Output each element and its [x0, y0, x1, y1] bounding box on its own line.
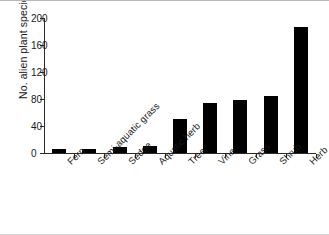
- y-axis-line: [44, 18, 45, 154]
- bar: [52, 149, 66, 153]
- y-tick-label: 80: [31, 94, 34, 105]
- y-tick-label: 40: [31, 121, 34, 132]
- y-tick-label: 120: [31, 67, 34, 78]
- bar: [203, 103, 217, 153]
- y-axis-title: No. alien plant species: [16, 0, 30, 115]
- y-tick-mark: [40, 153, 44, 154]
- bar: [294, 27, 308, 153]
- y-tick-label: 200: [31, 13, 34, 24]
- y-tick-label: 160: [31, 40, 34, 51]
- plot-area: 04080120160200: [44, 18, 316, 153]
- bar: [233, 100, 247, 153]
- y-tick-label: 0: [31, 148, 34, 159]
- bar-chart-figure: No. alien plant species 04080120160200 F…: [0, 0, 329, 235]
